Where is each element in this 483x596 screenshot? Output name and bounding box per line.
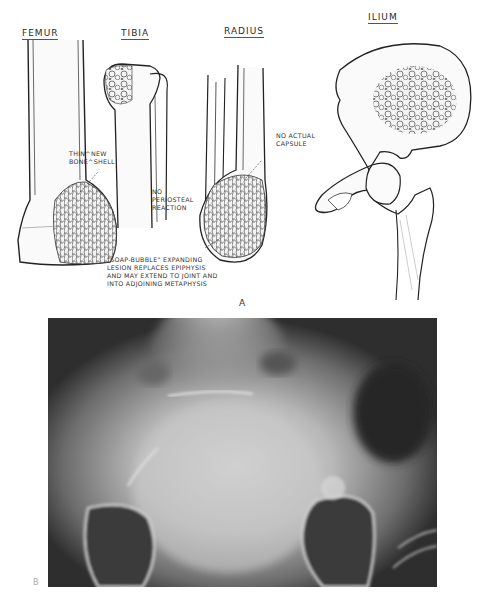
radius-drawing [200,65,267,262]
pelvic-radiograph [48,318,437,587]
no-periosteal-reaction-annotation: NO PERIOSTEAL REACTION [152,188,194,212]
ilium-drawing [315,44,470,300]
radius-label: RADIUS [224,26,264,38]
ilium-label: ILIUM [368,12,398,24]
femur-label: FEMUR [22,28,58,40]
panel-a-letter: A [239,298,245,308]
panel-b-letter: B [33,578,39,587]
thin-new-bone-shell-annotation: THIN^NEW BONE^SHELL [69,150,115,166]
no-actual-capsule-annotation: NO ACTUAL CAPSULE [276,132,315,148]
soap-bubble-annotation: "SOAP-BUBBLE" EXPANDING LESION REPLACES … [107,256,218,288]
tibia-label: TIBIA [121,28,149,40]
